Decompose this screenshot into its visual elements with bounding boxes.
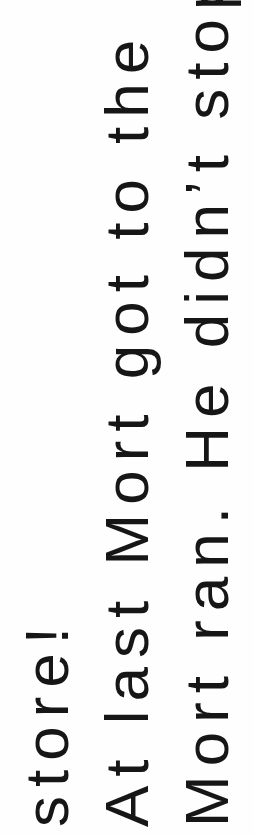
text-line-1: Mort ran. He didn’t stop.: [176, 0, 238, 827]
rotated-text-block: Mort ran. He didn’t stop. At last Mort g…: [0, 0, 254, 837]
text-line-3: store!: [16, 618, 78, 827]
text-line-2: At last Mort got to the: [96, 31, 158, 827]
scanned-page: Mort ran. He didn’t stop. At last Mort g…: [0, 0, 254, 837]
